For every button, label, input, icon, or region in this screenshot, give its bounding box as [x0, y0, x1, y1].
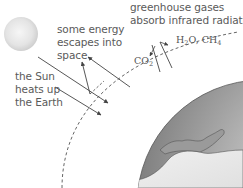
greenhouse-absorption-arrows: [150, 42, 172, 72]
co2-base: CO: [134, 55, 149, 66]
co2-label: CO2: [134, 55, 153, 68]
h2o-ch4-label: H2O, CH4: [176, 34, 221, 47]
co2-subscript: 2: [149, 60, 153, 68]
greenhouse-label-line-2: absorb infrared radiation: [130, 14, 243, 27]
sun-icon: [4, 17, 38, 51]
greenhouse-label: greenhouse gases absorb infrared radiati…: [130, 1, 243, 27]
escape-label-line-3: space: [57, 49, 124, 62]
ch4-subscript: 4: [217, 39, 221, 47]
sun-label: the Sun heats up the Earth: [15, 70, 63, 109]
escape-label: some energy escapes into space: [57, 23, 124, 62]
earth-globe-icon: [137, 59, 243, 188]
greenhouse-label-line-1: greenhouse gases: [130, 1, 243, 14]
escape-label-line-1: some energy: [57, 23, 124, 36]
sun-label-line-2: heats up: [15, 83, 63, 96]
sun-label-line-3: the Earth: [15, 96, 63, 109]
sun-label-line-1: the Sun: [15, 70, 63, 83]
h2o-ch-text: O, CH: [188, 34, 217, 45]
greenhouse-diagram: some energy escapes into space the Sun h…: [0, 0, 243, 188]
escape-label-line-2: escapes into: [57, 36, 124, 49]
